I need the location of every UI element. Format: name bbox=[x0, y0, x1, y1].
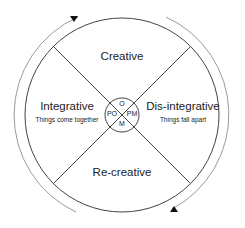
up-arrow-icon bbox=[170, 206, 178, 212]
center-label-bottom: M bbox=[116, 120, 128, 127]
outer-arc-left bbox=[14, 17, 78, 212]
center-label-left: PO bbox=[105, 110, 119, 117]
quadrant-creative-title: Creative bbox=[82, 50, 162, 62]
quadrant-disintegrative-title: Dis-integrative bbox=[142, 100, 224, 112]
center-label-right: PM bbox=[125, 110, 139, 117]
quadrant-integrative-title: Integrative bbox=[30, 100, 104, 112]
quadrant-disintegrative-subtitle: Things fall apart bbox=[142, 116, 224, 123]
cycle-diagram bbox=[0, 0, 245, 228]
center-label-top: O bbox=[116, 100, 128, 107]
quadrant-recreative-title: Re-creative bbox=[82, 166, 162, 178]
down-arrow-icon bbox=[70, 16, 78, 22]
quadrant-integrative-subtitle: Things come together bbox=[30, 116, 104, 123]
